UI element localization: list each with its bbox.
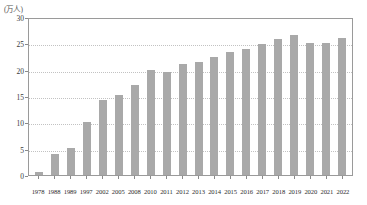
x-tick-label: 2020 [304, 188, 317, 195]
x-tick-mark [38, 176, 39, 179]
bar-slot [302, 19, 318, 175]
x-tick-label: 2013 [192, 188, 205, 195]
x-tick-label: 1988 [48, 188, 61, 195]
x-tick-slot [207, 176, 223, 179]
bar-slot [47, 19, 63, 175]
x-tick-mark [86, 176, 87, 179]
x-tick-mark [214, 176, 215, 179]
bar-slot [222, 19, 238, 175]
x-tick-slot [78, 176, 94, 179]
x-axis-ticks [28, 176, 353, 179]
y-tick-label: 0 [20, 172, 24, 181]
bar-slot [286, 19, 302, 175]
x-label-slot: 2011 [158, 180, 174, 198]
x-label-slot: 2015 [223, 180, 239, 198]
x-tick-slot [239, 176, 255, 179]
x-tick-mark [118, 176, 119, 179]
bar-chart: (万人) 051015202530 1978198819891997200220… [0, 0, 367, 205]
x-tick-mark [182, 176, 183, 179]
x-tick-slot [94, 176, 110, 179]
bar-slot [143, 19, 159, 175]
x-tick-slot [303, 176, 319, 179]
x-label-slot: 2020 [303, 180, 319, 198]
x-axis-labels: 1978198819891997200220052008201020112012… [28, 180, 353, 198]
y-tick-label: 30 [17, 14, 25, 23]
x-tick-label: 2018 [272, 188, 285, 195]
x-label-slot: 1988 [46, 180, 62, 198]
bar [322, 43, 330, 175]
y-axis-unit-label: (万人) [4, 3, 23, 14]
x-label-slot: 2022 [335, 180, 351, 198]
bar [195, 62, 203, 175]
bar-slot [334, 19, 350, 175]
x-tick-label: 2017 [256, 188, 269, 195]
bar-series [29, 19, 352, 175]
bar-slot [318, 19, 334, 175]
x-tick-slot [271, 176, 287, 179]
x-tick-label: 2005 [112, 188, 125, 195]
x-tick-slot [190, 176, 206, 179]
x-tick-mark [278, 176, 279, 179]
x-tick-slot [174, 176, 190, 179]
x-label-slot: 2021 [319, 180, 335, 198]
x-label-slot: 2005 [110, 180, 126, 198]
bar [67, 148, 75, 175]
x-tick-label: 2015 [224, 188, 237, 195]
bar [35, 172, 43, 175]
x-tick-label: 1989 [64, 188, 77, 195]
y-tick-label: 20 [17, 66, 25, 75]
x-label-slot: 2018 [271, 180, 287, 198]
x-tick-slot [126, 176, 142, 179]
bar-slot [111, 19, 127, 175]
x-label-slot: 2002 [94, 180, 110, 198]
bar [338, 38, 346, 175]
x-tick-label: 2002 [96, 188, 109, 195]
x-tick-mark [102, 176, 103, 179]
x-tick-mark [198, 176, 199, 179]
x-tick-mark [70, 176, 71, 179]
y-tick-label: 25 [17, 40, 25, 49]
x-tick-mark [262, 176, 263, 179]
bar [163, 72, 171, 175]
x-tick-slot [158, 176, 174, 179]
x-tick-slot [319, 176, 335, 179]
x-tick-label: 2012 [176, 188, 189, 195]
bar-slot [238, 19, 254, 175]
x-tick-mark [294, 176, 295, 179]
x-tick-slot [142, 176, 158, 179]
x-tick-label: 2014 [208, 188, 221, 195]
bar-slot [159, 19, 175, 175]
x-tick-mark [230, 176, 231, 179]
x-label-slot: 2010 [142, 180, 158, 198]
bar [258, 44, 266, 175]
x-label-slot: 2012 [174, 180, 190, 198]
bar-slot [206, 19, 222, 175]
x-tick-mark [150, 176, 151, 179]
x-label-slot: 2014 [207, 180, 223, 198]
x-tick-label: 1978 [32, 188, 45, 195]
bar-slot [31, 19, 47, 175]
x-tick-label: 2010 [144, 188, 157, 195]
bar [306, 43, 314, 175]
bar [83, 122, 91, 175]
x-tick-label: 2021 [320, 188, 333, 195]
bar [242, 49, 250, 175]
x-label-slot: 1997 [78, 180, 94, 198]
bar [99, 100, 107, 175]
bar [179, 64, 187, 175]
x-label-slot: 2013 [190, 180, 206, 198]
bar [210, 57, 218, 176]
x-label-slot: 2017 [255, 180, 271, 198]
x-tick-label: 2016 [240, 188, 253, 195]
x-label-slot: 1978 [30, 180, 46, 198]
x-label-slot: 2008 [126, 180, 142, 198]
x-tick-slot [46, 176, 62, 179]
bar [51, 154, 59, 175]
bar [226, 52, 234, 175]
x-tick-label: 1997 [80, 188, 93, 195]
bar-slot [79, 19, 95, 175]
y-tick-label: 15 [17, 93, 25, 102]
x-tick-mark [310, 176, 311, 179]
y-axis: 051015202530 [0, 18, 28, 176]
y-tick-label: 5 [20, 145, 24, 154]
